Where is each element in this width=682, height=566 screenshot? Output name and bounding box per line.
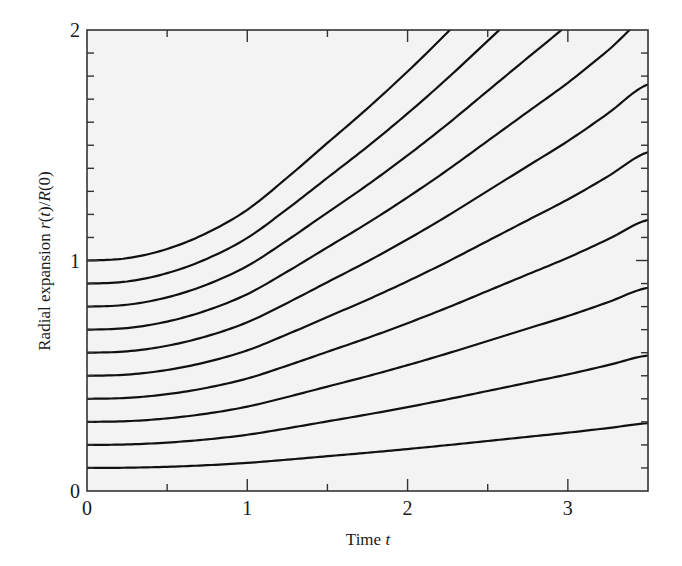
x-axis-label: Time t [346, 530, 392, 549]
y-tick-label: 1 [70, 250, 80, 272]
x-tick-label: 0 [82, 497, 92, 519]
radial-expansion-chart: 0123012 Time t Radial expansion r(t)/R(0… [0, 0, 682, 566]
y-tick-label: 2 [70, 19, 80, 41]
x-tick-label: 3 [563, 497, 573, 519]
y-tick-label: 0 [70, 480, 80, 502]
x-tick-label: 2 [403, 497, 413, 519]
x-tick-label: 1 [242, 497, 252, 519]
y-axis-label: Radial expansion r(t)/R(0) [35, 171, 54, 350]
